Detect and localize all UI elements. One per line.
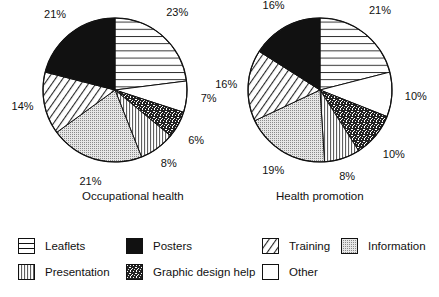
legend-item-training: Training	[262, 238, 330, 254]
chart-title-health-promotion: Health promotion	[276, 190, 364, 202]
legend-item-other: Other	[262, 264, 318, 280]
slice-percent-label: 21%	[44, 8, 66, 20]
speckled-swatch-icon	[126, 264, 143, 280]
pie-health-promotion: 21%10%10%8%19%16%16%	[215, 0, 427, 182]
vertical-lines-swatch-icon	[18, 264, 35, 280]
pie-occupational-health: 23%7%6%8%21%14%21%	[12, 6, 217, 187]
legend-label: Other	[289, 266, 318, 278]
pie-slice-leaflets	[115, 18, 186, 90]
legend-item-information: Information	[341, 238, 426, 254]
fine-dots-swatch-icon	[341, 238, 358, 254]
horizontal-lines-swatch-icon	[18, 238, 35, 254]
solid-black-swatch-icon	[126, 238, 143, 254]
legend-item-graphic-design-help: Graphic design help	[126, 264, 255, 280]
slice-percent-label: 8%	[339, 170, 355, 182]
legend-label: Posters	[153, 240, 192, 252]
slice-percent-label: 14%	[12, 100, 34, 112]
slice-percent-label: 21%	[369, 4, 391, 16]
slice-percent-label: 10%	[383, 148, 405, 160]
legend-item-leaflets: Leaflets	[18, 238, 85, 254]
slice-percent-label: 16%	[263, 0, 285, 11]
legend-item-presentation: Presentation	[18, 264, 110, 280]
slice-percent-label: 8%	[161, 157, 177, 169]
slice-percent-label: 21%	[79, 175, 101, 187]
white-swatch-icon	[262, 264, 279, 280]
slice-percent-label: 6%	[188, 134, 204, 146]
chart-title-occupational-health: Occupational health	[82, 190, 184, 202]
legend-label: Presentation	[45, 266, 110, 278]
legend-label: Graphic design help	[153, 266, 255, 278]
diagonal-lines-swatch-icon	[262, 238, 279, 254]
slice-percent-label: 23%	[166, 6, 188, 18]
slice-percent-label: 16%	[215, 78, 237, 90]
legend-item-posters: Posters	[126, 238, 192, 254]
slice-percent-label: 19%	[262, 164, 284, 176]
legend-label: Information	[368, 240, 426, 252]
slice-percent-label: 7%	[201, 92, 217, 104]
slice-percent-label: 10%	[405, 90, 427, 102]
legend-label: Leaflets	[45, 240, 85, 252]
legend-label: Training	[289, 240, 330, 252]
